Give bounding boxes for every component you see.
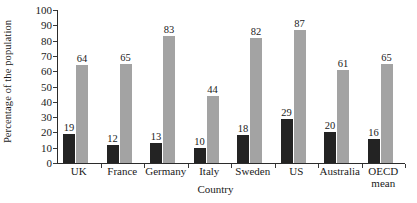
x-axis-tick-mark: [275, 164, 276, 168]
bar-value-label: 83: [156, 24, 182, 35]
y-axis-tick-label: 90: [18, 20, 52, 31]
y-axis-tick-label: 50: [18, 81, 52, 92]
bar-grey: [337, 70, 349, 163]
bar-group: 2987: [275, 10, 319, 163]
bar-grey: [163, 36, 175, 163]
y-axis-tick-mark: [53, 132, 57, 133]
y-axis-tick-mark: [53, 102, 57, 103]
bar-value-label: 65: [113, 52, 139, 63]
y-axis-tick-labels: 0102030405060708090100: [18, 0, 52, 168]
bar-value-label: 82: [243, 26, 269, 37]
y-axis-tick-mark: [53, 56, 57, 57]
bar-value-label: 87: [287, 18, 313, 29]
y-axis-tick-label: 80: [18, 35, 52, 46]
x-axis-tick-label: Germany: [144, 165, 188, 177]
bar-grey: [76, 65, 88, 163]
y-axis-tick-mark: [53, 87, 57, 88]
bar-group: 1265: [101, 10, 145, 163]
x-axis-tick-label: Australia: [318, 165, 362, 177]
y-axis-tick-label: 40: [18, 96, 52, 107]
bar-value-label: 44: [200, 84, 226, 95]
x-axis-tick-mark: [362, 164, 363, 168]
y-axis-tick-mark: [53, 117, 57, 118]
bar-group: 2061: [318, 10, 362, 163]
bar-dark: [324, 132, 336, 163]
y-axis-tick-label: 20: [18, 127, 52, 138]
y-axis-tick-mark: [53, 10, 57, 11]
y-axis-tick-label: 60: [18, 66, 52, 77]
y-axis-tick-mark: [53, 25, 57, 26]
y-axis-tick-mark: [53, 163, 57, 164]
y-axis-tick-label: 0: [18, 158, 52, 169]
bar-value-label: 61: [330, 58, 356, 69]
x-axis-tick-mark: [405, 164, 406, 168]
y-axis-tick-label: 70: [18, 50, 52, 61]
x-axis-tick-mark: [318, 164, 319, 168]
bar-grey: [120, 64, 132, 163]
bar-group: 1964: [57, 10, 101, 163]
bar-group: 1383: [144, 10, 188, 163]
bar-dark: [150, 143, 162, 163]
x-axis-tick-label: France: [101, 165, 145, 177]
bar-dark: [107, 145, 119, 163]
x-axis-tick-label: Italy: [188, 165, 232, 177]
y-axis-tick-mark: [53, 41, 57, 42]
x-axis-tick-label: UK: [57, 165, 101, 177]
y-axis-title-text: Percentage of the population: [3, 20, 14, 143]
x-axis-tick-label: US: [275, 165, 319, 177]
bar-dark: [368, 139, 380, 163]
y-axis-title: Percentage of the population: [0, 0, 16, 163]
x-axis-title-text: Country: [197, 183, 233, 195]
bar-dark: [237, 135, 249, 163]
x-axis-tick-label: Sweden: [231, 165, 275, 177]
y-axis-tick-label: 100: [18, 5, 52, 16]
x-axis-tick-mark: [144, 164, 145, 168]
bar-value-label: 65: [374, 52, 400, 63]
x-axis-title: Country: [0, 183, 417, 195]
x-axis-tick-mark: [188, 164, 189, 168]
bar-grey: [381, 64, 393, 163]
bar-grey: [250, 38, 262, 163]
y-axis-tick-label: 10: [18, 142, 52, 153]
bar-value-label: 64: [69, 53, 95, 64]
bar-dark: [63, 134, 75, 163]
bar-group: 1665: [362, 10, 406, 163]
plot-area: 19641265138310441882298720611665: [57, 10, 405, 163]
bar-dark: [194, 148, 206, 163]
bar-grey: [294, 30, 306, 163]
bar-group: 1882: [231, 10, 275, 163]
y-axis-tick-mark: [53, 148, 57, 149]
y-axis-tick-mark: [53, 71, 57, 72]
y-axis-tick-label: 30: [18, 112, 52, 123]
bar-grey: [207, 96, 219, 163]
bar-group: 1044: [188, 10, 232, 163]
bar-dark: [281, 119, 293, 163]
bar-chart: Percentage of the population 01020304050…: [0, 0, 417, 203]
x-axis-tick-mark: [231, 164, 232, 168]
x-axis-tick-mark: [101, 164, 102, 168]
